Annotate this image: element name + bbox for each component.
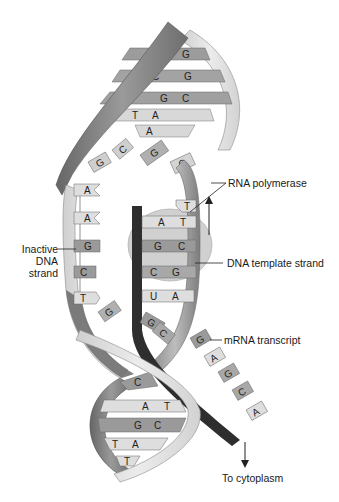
svg-text:A: A bbox=[84, 213, 91, 224]
svg-text:G: G bbox=[160, 93, 168, 104]
svg-text:C: C bbox=[150, 267, 157, 278]
inactive-base-5: T bbox=[74, 292, 100, 304]
label-inactive-dna-strand: Inactive DNA strand bbox=[14, 243, 58, 279]
label-mrna-transcript: mRNA transcript bbox=[224, 334, 300, 346]
svg-text:T: T bbox=[184, 201, 190, 212]
inactive-base-4: C bbox=[74, 266, 96, 278]
svg-text:A: A bbox=[152, 110, 159, 121]
lower-pair-3: GC bbox=[98, 418, 186, 432]
downward-arrow bbox=[241, 442, 249, 468]
template-pair-3: CG bbox=[142, 266, 196, 278]
template-pair-4: UA bbox=[142, 290, 194, 302]
upper-pair-5: A bbox=[135, 125, 195, 137]
inactive-base-2: A bbox=[74, 212, 100, 224]
label-inactive-line2: DNA bbox=[14, 255, 58, 267]
svg-text:T: T bbox=[112, 439, 118, 450]
lower-pair-2: AT bbox=[100, 400, 186, 412]
svg-text:C: C bbox=[178, 241, 185, 252]
svg-text:A: A bbox=[142, 401, 149, 412]
svg-text:T: T bbox=[164, 401, 170, 412]
label-to-cytoplasm: To cytoplasm bbox=[222, 472, 283, 484]
template-pair-2: GC bbox=[142, 240, 196, 252]
label-dna-template-strand: DNA template strand bbox=[227, 257, 324, 269]
svg-text:T: T bbox=[180, 217, 186, 228]
label-rna-polymerase: RNA polymerase bbox=[228, 177, 307, 189]
svg-text:G: G bbox=[84, 241, 92, 252]
svg-text:G: G bbox=[184, 71, 192, 82]
svg-text:G: G bbox=[154, 241, 162, 252]
svg-text:A: A bbox=[146, 126, 153, 137]
svg-text:T: T bbox=[124, 456, 130, 467]
upper-pair-4: T A bbox=[112, 109, 214, 121]
inactive-base-3: G bbox=[74, 240, 100, 252]
svg-text:U: U bbox=[150, 291, 157, 302]
svg-text:T: T bbox=[132, 110, 138, 121]
inactive-base-6: G bbox=[98, 301, 121, 322]
template-pair-1: AT bbox=[142, 216, 196, 228]
svg-text:C: C bbox=[182, 93, 189, 104]
svg-text:A: A bbox=[84, 185, 91, 196]
svg-text:G: G bbox=[172, 267, 180, 278]
label-inactive-line1: Inactive bbox=[14, 243, 58, 255]
svg-text:T: T bbox=[80, 293, 86, 304]
inactive-base-1: A bbox=[74, 184, 100, 196]
svg-text:C: C bbox=[80, 267, 87, 278]
svg-text:C: C bbox=[154, 420, 161, 431]
svg-text:A: A bbox=[172, 291, 179, 302]
label-inactive-line3: strand bbox=[14, 267, 58, 279]
svg-text:G: G bbox=[134, 420, 142, 431]
lower-pair-4: TA bbox=[104, 438, 168, 450]
base-g: G bbox=[182, 49, 190, 60]
upper-helix: C G C G G C T A A bbox=[56, 22, 240, 195]
svg-text:C: C bbox=[134, 377, 141, 388]
svg-text:A: A bbox=[158, 217, 165, 228]
svg-text:A: A bbox=[132, 439, 139, 450]
